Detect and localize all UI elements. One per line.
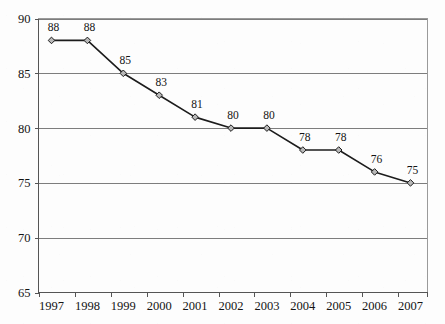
data-point-label: 75 (407, 164, 419, 176)
data-point-label: 88 (84, 21, 96, 33)
x-axis-label: 2000 (147, 299, 172, 313)
data-point-label: 78 (299, 131, 311, 143)
y-axis-label: 65 (18, 286, 31, 300)
y-axis-labels: 657075808590 (18, 12, 31, 300)
x-axis-label: 2004 (290, 299, 316, 313)
data-point-label: 83 (155, 76, 167, 88)
x-axis-label: 2001 (183, 299, 208, 313)
x-axis-label: 2002 (219, 299, 244, 313)
x-axis-label: 2003 (254, 299, 279, 313)
x-axis-label: 2007 (398, 299, 423, 313)
line-chart: 657075808590 199719981999200020012002200… (0, 0, 445, 324)
x-axis-label: 1999 (111, 299, 136, 313)
data-point-marker (48, 37, 55, 44)
data-point-marker (407, 180, 414, 187)
data-point-marker (228, 125, 235, 132)
y-axis-label: 90 (18, 12, 31, 26)
data-point-label: 80 (263, 109, 275, 121)
data-point-label: 88 (48, 21, 60, 33)
plot-area-border (39, 19, 428, 293)
x-axis-label: 1997 (39, 299, 64, 313)
x-axis-labels: 1997199819992000200120022003200420052006… (39, 299, 423, 313)
data-point-label: 78 (335, 131, 347, 143)
x-axis-label: 2006 (362, 299, 387, 313)
y-axis-label: 70 (18, 231, 31, 245)
data-point-label: 80 (227, 109, 239, 121)
x-axis-label: 1998 (75, 299, 100, 313)
y-axis-label: 85 (18, 67, 31, 81)
y-axis-label: 80 (18, 122, 31, 136)
data-point-label: 76 (371, 153, 383, 165)
data-point-label: 85 (120, 54, 132, 66)
data-point-label: 81 (191, 98, 203, 110)
chart-canvas: 657075808590 199719981999200020012002200… (0, 0, 445, 324)
data-point-labels: 8888858381808078787675 (48, 21, 419, 175)
x-axis-label: 2005 (326, 299, 351, 313)
y-axis-label: 75 (18, 176, 31, 190)
chart-page: 657075808590 199719981999200020012002200… (0, 0, 445, 324)
plot-frame (39, 19, 428, 293)
